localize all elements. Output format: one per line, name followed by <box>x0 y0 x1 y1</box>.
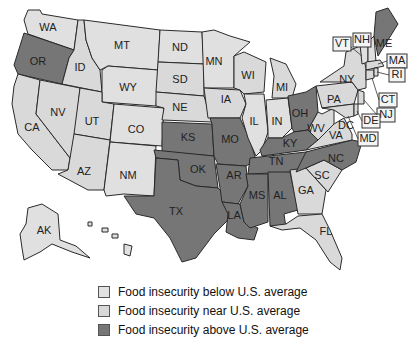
label-il: IL <box>249 115 258 127</box>
label-ar: AR <box>226 169 241 181</box>
label-sd: SD <box>172 73 187 85</box>
label-tx: TX <box>169 205 184 217</box>
state-ct <box>366 70 374 80</box>
label-ut: UT <box>85 115 100 127</box>
label-ny: NY <box>339 73 355 85</box>
legend-label-above: Food insecurity above U.S. average <box>118 323 309 337</box>
label-ak: AK <box>37 224 52 236</box>
label-nc: NC <box>328 152 344 164</box>
label-ne: NE <box>172 101 187 113</box>
label-ms: MS <box>249 189 266 201</box>
label-fl: FL <box>320 225 333 237</box>
label-ca: CA <box>24 121 40 133</box>
label-me: ME <box>376 37 393 49</box>
callout-ct: CT <box>379 93 397 107</box>
svg-text:VT: VT <box>335 37 349 49</box>
legend-swatch-below <box>98 286 110 298</box>
label-oh: OH <box>292 107 309 119</box>
label-ks: KS <box>181 131 196 143</box>
svg-text:NJ: NJ <box>379 108 392 120</box>
label-pa: PA <box>327 93 342 105</box>
legend-label-below: Food insecurity below U.S. average <box>118 285 307 299</box>
legend-swatch-near <box>98 305 110 317</box>
legend-item-below: Food insecurity below U.S. average <box>98 283 309 301</box>
legend-label-near: Food insecurity near U.S. average <box>118 304 300 318</box>
label-mo: MO <box>221 133 239 145</box>
label-mi: MI <box>276 81 288 93</box>
callout-ma: MA <box>387 54 407 68</box>
label-tn: TN <box>269 155 284 167</box>
label-ga: GA <box>298 184 315 196</box>
state-hi <box>88 222 132 256</box>
callout-md: MD <box>358 132 378 146</box>
callout-ri: RI <box>389 68 405 82</box>
state-de <box>354 104 358 116</box>
label-id: ID <box>75 61 86 73</box>
label-or: OR <box>30 55 47 67</box>
label-mn: MN <box>205 55 222 67</box>
svg-text:RI: RI <box>392 68 403 80</box>
label-wy: WY <box>119 81 137 93</box>
svg-text:DE: DE <box>363 114 378 126</box>
label-nd: ND <box>172 41 188 53</box>
label-ok: OK <box>190 163 207 175</box>
callout-vt: VT <box>333 37 351 51</box>
label-ky: KY <box>283 137 298 149</box>
svg-text:MD: MD <box>359 132 376 144</box>
legend-swatch-above <box>98 324 110 336</box>
label-al: AL <box>273 189 286 201</box>
label-co: CO <box>128 123 145 135</box>
callout-nh: NH <box>353 33 371 47</box>
svg-text:MA: MA <box>389 54 406 66</box>
label-la: LA <box>227 209 241 221</box>
state-nj <box>358 90 364 104</box>
label-nv: NV <box>50 106 66 118</box>
legend-item-above: Food insecurity above U.S. average <box>98 321 309 339</box>
label-wv: WV <box>307 122 325 134</box>
label-sc: SC <box>314 169 329 181</box>
label-ia: IA <box>221 93 232 105</box>
legend-item-near: Food insecurity near U.S. average <box>98 302 309 320</box>
label-az: AZ <box>77 165 91 177</box>
svg-text:CT: CT <box>381 93 396 105</box>
label-wa: WA <box>39 21 57 33</box>
label-nm: NM <box>119 169 136 181</box>
state-ak <box>20 204 90 260</box>
label-mt: MT <box>114 39 130 51</box>
label-wi: WI <box>241 69 254 81</box>
callout-de: DE <box>362 114 380 128</box>
label-in: IN <box>272 115 283 127</box>
map-legend: Food insecurity below U.S. average Food … <box>98 283 309 340</box>
svg-text:NH: NH <box>354 33 370 45</box>
